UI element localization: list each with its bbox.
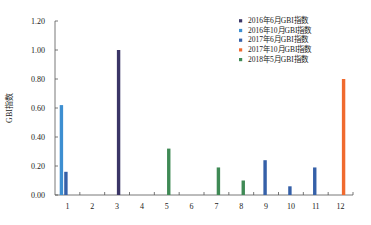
- bar: [117, 50, 120, 195]
- bar: [263, 160, 266, 195]
- legend-swatch: [239, 58, 242, 61]
- y-tick-label: 1.20: [31, 17, 45, 26]
- y-tick-label: 0.40: [31, 133, 45, 142]
- x-tick-label: 3: [115, 202, 119, 211]
- x-tick-label: 9: [264, 202, 268, 211]
- bar: [242, 181, 245, 196]
- x-tick-label: 5: [165, 202, 169, 211]
- bar: [313, 167, 316, 195]
- y-tick-label: 0.20: [31, 162, 45, 171]
- legend-swatch: [239, 29, 242, 32]
- bar: [64, 172, 67, 195]
- bar: [342, 79, 345, 195]
- legend-label: 2017年6月GBI指数: [248, 34, 309, 44]
- y-tick-label: 0.60: [31, 104, 45, 113]
- x-tick-label: 1: [65, 202, 69, 211]
- bar-chart: 0.000.200.400.600.801.001.20 12345678910…: [0, 0, 371, 225]
- legend-swatch: [239, 39, 242, 42]
- bar: [288, 186, 291, 195]
- bar: [167, 149, 170, 195]
- y-axis-title: GBI指数: [4, 93, 14, 123]
- x-tick-label: 11: [312, 202, 320, 211]
- legend-label: 2016年10月GBI指数: [248, 25, 312, 35]
- legend-swatch: [239, 19, 242, 22]
- x-tick-label: 8: [239, 202, 243, 211]
- y-tick-label: 1.00: [31, 46, 45, 55]
- legend-swatch: [239, 48, 242, 51]
- legend-label: 2018年5月GBI指数: [248, 54, 309, 64]
- legend-label: 2016年6月GBI指数: [248, 15, 309, 25]
- x-tick-label: 2: [90, 202, 94, 211]
- y-axis: 0.000.200.400.600.801.001.20: [31, 17, 58, 200]
- x-tick-label: 12: [337, 202, 345, 211]
- x-axis: 123456789101112: [55, 192, 353, 211]
- bar: [217, 167, 220, 195]
- y-tick-label: 0.80: [31, 75, 45, 84]
- y-tick-label: 0.00: [31, 191, 45, 200]
- x-tick-label: 10: [287, 202, 295, 211]
- legend: 2016年6月GBI指数2016年10月GBI指数2017年6月GBI指数201…: [239, 15, 312, 64]
- x-tick-label: 7: [214, 202, 218, 211]
- bars: [60, 50, 346, 195]
- legend-label: 2017年10月GBI指数: [248, 44, 312, 54]
- x-tick-label: 6: [190, 202, 194, 211]
- x-tick-label: 4: [140, 202, 144, 211]
- bar: [60, 105, 63, 195]
